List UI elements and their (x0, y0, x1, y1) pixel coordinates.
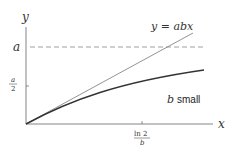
line-label: y = abx (150, 20, 194, 33)
y-tick-label-half-a-numerator: a (11, 76, 15, 84)
y-tick-label-a: a (13, 40, 20, 54)
y-tick-label-half-a-denominator: 2 (11, 85, 15, 93)
diagram-canvas: y x a a 2 ln 2 b y = abx b small (0, 0, 238, 152)
y-axis-label: y (21, 10, 29, 24)
x-tick-label-numerator: ln 2 (134, 130, 147, 138)
x-axis-label: x (218, 117, 225, 131)
curve-label-var: b (167, 93, 174, 106)
x-tick-label-denominator: b (140, 139, 145, 147)
line-y-equals-abx (26, 33, 193, 124)
curve-label-text: small (177, 94, 200, 105)
